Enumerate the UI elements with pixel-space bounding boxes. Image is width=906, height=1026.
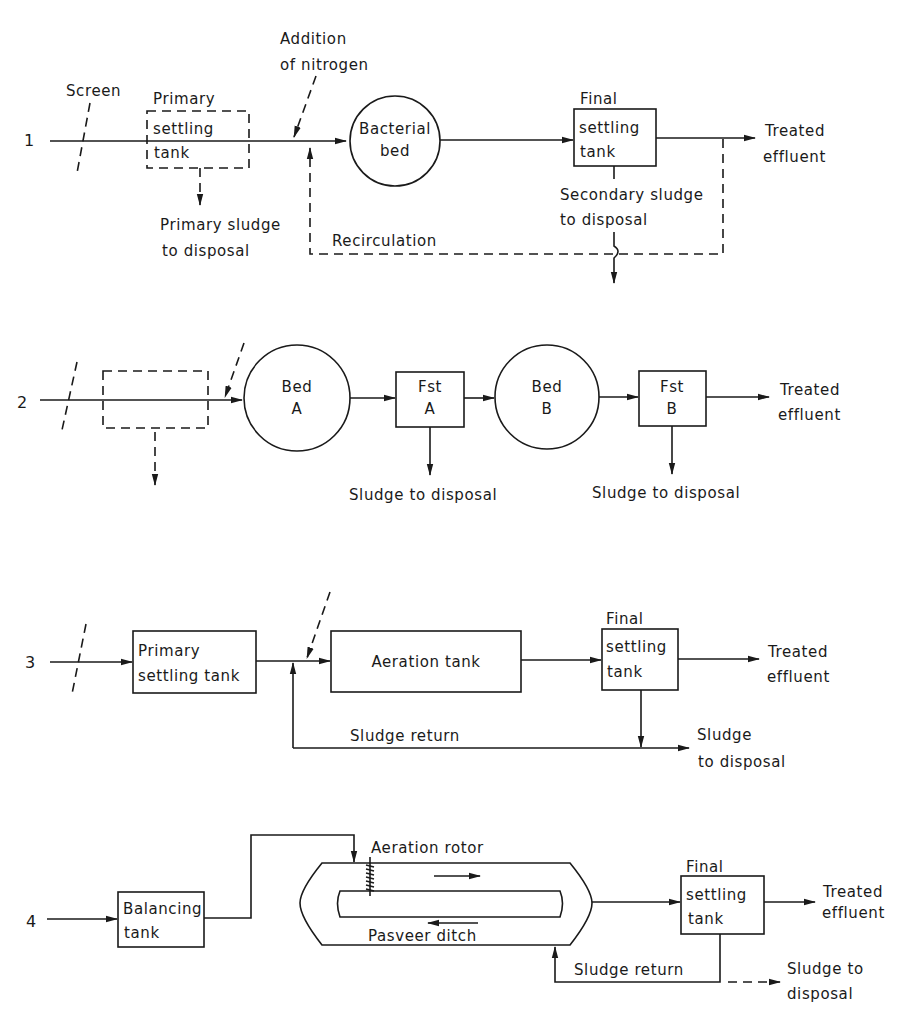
diagram-4-oxidation-ditch: 4 Balancing tank Aeration rotor Pasveer … bbox=[26, 835, 885, 1003]
sludge-a-label: Sludge to disposal bbox=[349, 486, 497, 504]
primary-sludge-label-2: to disposal bbox=[162, 242, 250, 260]
diagram-3-activated-sludge: 3 Primary settling tank Aeration tank Fi… bbox=[25, 592, 830, 771]
effluent-label-2: effluent bbox=[778, 406, 841, 424]
sludge-b-label: Sludge to disposal bbox=[592, 484, 740, 502]
sludge-return-label: Sludge return bbox=[350, 727, 460, 745]
effluent-label-1: Treated bbox=[822, 883, 883, 901]
final-tank-label-3: tank bbox=[688, 910, 724, 928]
primary-tank-label-2: settling bbox=[153, 120, 214, 138]
screen-label: Screen bbox=[66, 82, 121, 100]
primary-tank-label-1: Primary bbox=[138, 642, 200, 660]
diagram-2-two-stage-filtration: 2 Bed A Fst A Sludge to disposal Bed B F… bbox=[17, 343, 841, 504]
final-tank-label-1: Final bbox=[686, 858, 724, 876]
fst-a-label-2: A bbox=[425, 400, 436, 418]
process-flow-figure: 1 Screen Primary settling tank Primary s… bbox=[0, 0, 906, 1026]
bacterial-bed-label-1: Bacterial bbox=[359, 120, 431, 138]
effluent-label-1: Treated bbox=[779, 381, 840, 399]
screen-symbol bbox=[62, 362, 77, 430]
sludge-disposal-label-2: to disposal bbox=[698, 753, 786, 771]
screen-symbol bbox=[72, 624, 86, 694]
fst-b-label-2: B bbox=[667, 400, 678, 418]
diagram-number: 1 bbox=[24, 131, 35, 150]
final-tank-label-3: tank bbox=[580, 143, 616, 161]
final-tank-label-3: tank bbox=[607, 663, 643, 681]
screen-symbol bbox=[77, 103, 90, 173]
bed-b-label-2: B bbox=[542, 400, 553, 418]
nitrogen-label-1: Addition bbox=[280, 30, 347, 48]
diagram-1-trickling-filter: 1 Screen Primary settling tank Primary s… bbox=[24, 30, 826, 283]
final-tank-label-2: settling bbox=[686, 886, 747, 904]
pasveer-ditch-label: Pasveer ditch bbox=[368, 927, 477, 945]
final-tank-label-1: Final bbox=[606, 610, 644, 628]
primary-tank-label-3: tank bbox=[154, 144, 190, 162]
diagram-number: 2 bbox=[17, 393, 28, 412]
bacterial-bed-label-2: bed bbox=[380, 142, 410, 160]
bed-a bbox=[244, 345, 350, 451]
ditch-inner-island bbox=[338, 891, 563, 917]
aeration-tank-label: Aeration tank bbox=[371, 653, 480, 671]
recirculation-label: Recirculation bbox=[332, 232, 437, 250]
primary-tank-label-2: settling tank bbox=[138, 667, 240, 685]
bed-a-label-2: A bbox=[292, 400, 303, 418]
aeration-rotor-label: Aeration rotor bbox=[371, 839, 484, 857]
effluent-label-2: effluent bbox=[767, 668, 830, 686]
effluent-label-1: Treated bbox=[764, 122, 825, 140]
primary-sludge-label-1: Primary sludge bbox=[160, 216, 281, 234]
nitrogen-addition-arrow bbox=[225, 343, 244, 397]
bed-a-label-1: Bed bbox=[282, 378, 313, 396]
nitrogen-label-2: of nitrogen bbox=[280, 56, 369, 74]
feed-pipe bbox=[204, 835, 354, 918]
final-tank-label-2: settling bbox=[579, 119, 640, 137]
fst-a-label-1: Fst bbox=[418, 378, 442, 396]
sludge-disposal-label-1: Sludge to bbox=[787, 960, 864, 978]
primary-tank-label-1: Primary bbox=[153, 90, 215, 108]
sludge-return-label: Sludge return bbox=[574, 961, 684, 979]
effluent-label-2: effluent bbox=[763, 148, 826, 166]
bacterial-bed bbox=[350, 96, 440, 186]
effluent-label-1: Treated bbox=[767, 643, 828, 661]
bed-b-label-1: Bed bbox=[532, 378, 563, 396]
bed-b bbox=[495, 345, 599, 449]
secondary-sludge-arrow bbox=[614, 232, 618, 283]
final-tank-label-1: Final bbox=[580, 90, 618, 108]
balancing-tank-label-1: Balancing bbox=[123, 900, 202, 918]
balancing-tank-label-2: tank bbox=[124, 924, 160, 942]
fst-b-label-1: Fst bbox=[660, 378, 684, 396]
secondary-sludge-label-2: to disposal bbox=[560, 211, 648, 229]
diagram-number: 4 bbox=[26, 912, 37, 931]
sludge-disposal-label-1: Sludge bbox=[697, 726, 752, 744]
nitrogen-addition-arrow bbox=[307, 592, 330, 658]
effluent-label-2: effluent bbox=[822, 904, 885, 922]
final-tank-label-2: settling bbox=[606, 638, 667, 656]
diagram-number: 3 bbox=[25, 653, 36, 672]
secondary-sludge-label-1: Secondary sludge bbox=[560, 186, 704, 204]
sludge-disposal-label-2: disposal bbox=[787, 985, 853, 1003]
nitrogen-addition-arrow bbox=[294, 76, 316, 137]
